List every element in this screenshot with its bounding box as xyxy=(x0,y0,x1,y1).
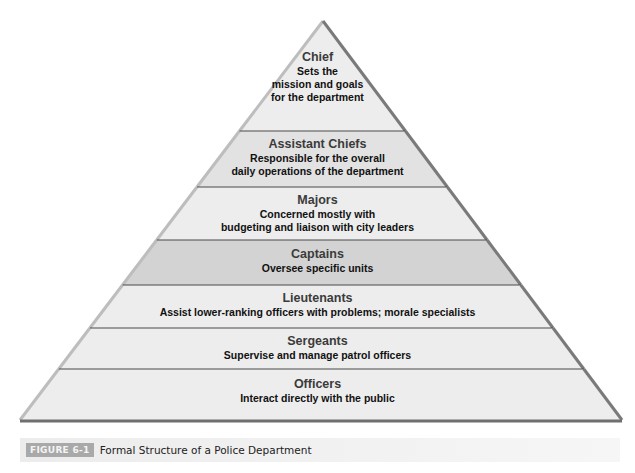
figure-title: Formal Structure of a Police Department xyxy=(100,444,312,456)
level-label: MajorsConcerned mostly with budgeting an… xyxy=(0,193,635,234)
level-label: OfficersInteract directly with the publi… xyxy=(0,377,635,405)
level-description: Responsible for the overall daily operat… xyxy=(0,152,635,178)
level-description: Concerned mostly with budgeting and liai… xyxy=(0,208,635,234)
level-description: Interact directly with the public xyxy=(0,392,635,405)
level-title: Assistant Chiefs xyxy=(0,137,635,152)
level-title: Sergeants xyxy=(0,334,635,349)
level-title: Captains xyxy=(0,247,635,262)
level-title: Officers xyxy=(0,377,635,392)
level-description: Oversee specific units xyxy=(0,262,635,275)
level-title: Majors xyxy=(0,193,635,208)
figure-caption: FIGURE 6-1 Formal Structure of a Police … xyxy=(20,438,620,462)
level-label: ChiefSets the mission and goals for the … xyxy=(0,50,635,104)
level-label: SergeantsSupervise and manage patrol off… xyxy=(0,334,635,362)
level-description: Assist lower-ranking officers with probl… xyxy=(0,306,635,319)
level-label: LieutenantsAssist lower-ranking officers… xyxy=(0,291,635,319)
level-label: Assistant ChiefsResponsible for the over… xyxy=(0,137,635,178)
figure-label-badge: FIGURE 6-1 xyxy=(26,443,94,457)
level-title: Chief xyxy=(0,50,635,65)
level-title: Lieutenants xyxy=(0,291,635,306)
level-label: CaptainsOversee specific units xyxy=(0,247,635,275)
level-description: Supervise and manage patrol officers xyxy=(0,349,635,362)
level-description: Sets the mission and goals for the depar… xyxy=(0,65,635,104)
